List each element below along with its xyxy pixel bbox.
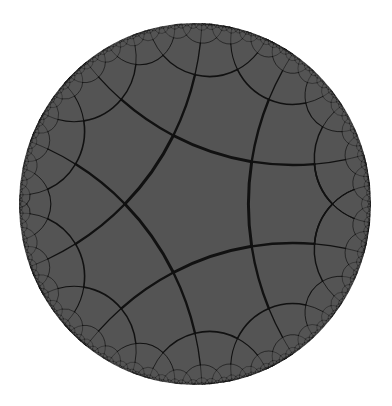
- hyperbolic-tiling-figure: [0, 0, 392, 406]
- poincare-disk: [0, 0, 392, 406]
